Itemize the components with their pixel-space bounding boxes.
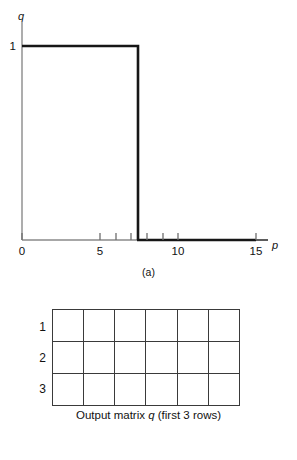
matrix-cell — [53, 374, 84, 406]
subfigure-a-label: (a) — [0, 266, 297, 278]
output-matrix-grid — [52, 309, 240, 406]
matrix-caption-after: (first 3 rows) — [155, 409, 221, 421]
matrix-cell — [115, 342, 146, 374]
x-tick-label-15: 15 — [246, 246, 266, 258]
matrix-cell — [146, 310, 177, 342]
y-tick-label-1: 1 — [2, 41, 16, 53]
matrix-cell — [146, 374, 177, 406]
matrix-cell — [177, 342, 208, 374]
y-axis-label: q — [18, 11, 24, 22]
figure-panel-b: 1 2 3 — [0, 285, 297, 460]
matrix-cell — [53, 310, 84, 342]
matrix-row-label-3: 3 — [32, 383, 46, 395]
step-curve — [22, 46, 138, 240]
matrix-cell — [208, 342, 239, 374]
matrix-caption: Output matrix q (first 3 rows) — [0, 409, 297, 421]
matrix-cell — [53, 342, 84, 374]
table-row — [53, 342, 240, 374]
step-function-plot — [0, 0, 297, 258]
x-tick-label-10: 10 — [168, 246, 188, 258]
matrix-caption-before: Output matrix — [76, 409, 148, 421]
matrix-cell — [115, 374, 146, 406]
matrix-row-label-1: 1 — [32, 321, 46, 333]
matrix-cell — [177, 374, 208, 406]
matrix-cell — [84, 374, 115, 406]
x-tick-label-5: 5 — [90, 246, 110, 258]
matrix-cell — [177, 310, 208, 342]
matrix-cell — [208, 374, 239, 406]
table-row — [53, 310, 240, 342]
table-row — [53, 374, 240, 406]
matrix-cell — [208, 310, 239, 342]
step-plot-svg — [0, 0, 297, 258]
matrix-cell — [84, 310, 115, 342]
x-tick-label-0: 0 — [12, 246, 32, 258]
figure-panel-a: q p 1 0 5 10 15 (a) — [0, 0, 297, 285]
matrix-cell — [84, 342, 115, 374]
x-axis-label: p — [272, 240, 278, 251]
matrix-body — [53, 310, 240, 406]
matrix-cell — [146, 342, 177, 374]
matrix-row-label-2: 2 — [32, 352, 46, 364]
matrix-cell — [115, 310, 146, 342]
